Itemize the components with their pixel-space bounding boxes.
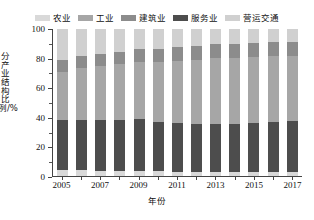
bar-segment-服务业	[76, 120, 87, 170]
x-tick	[81, 177, 82, 180]
x-tick-label: 2015	[245, 180, 263, 190]
bar-segment-农业	[172, 172, 183, 176]
bar-segment-营运交通	[191, 29, 202, 46]
x-tick-label: 2017	[283, 180, 301, 190]
legend-item-0[interactable]: 农业	[35, 14, 71, 23]
bar-segment-服务业	[191, 124, 202, 172]
bar-segment-建筑业	[248, 43, 259, 57]
bar-segment-工业	[172, 61, 183, 124]
bar-segment-农业	[191, 172, 202, 176]
legend-item-4[interactable]: 营运交通	[225, 14, 279, 23]
bar-2012[interactable]	[191, 29, 202, 176]
y-tick-label: 80	[0, 54, 45, 64]
bar-segment-营运交通	[76, 29, 87, 56]
bar-segment-营运交通	[114, 29, 125, 52]
y-tick-minor	[49, 133, 52, 134]
bar-segment-工业	[76, 68, 87, 120]
legend-label: 服务业	[191, 14, 218, 23]
bar-segment-建筑业	[76, 56, 87, 68]
bar-group	[53, 29, 302, 176]
x-tick-label: 2009	[130, 180, 148, 190]
bar-segment-农业	[248, 172, 259, 176]
x-tick-label: 2007	[91, 180, 109, 190]
bar-2013[interactable]	[210, 29, 221, 176]
bar-2005[interactable]	[57, 29, 68, 176]
bar-segment-建筑业	[172, 47, 183, 60]
x-axis-title: 年份	[0, 194, 314, 206]
bar-segment-营运交通	[57, 29, 68, 60]
bar-segment-服务业	[268, 122, 279, 172]
bar-2011[interactable]	[172, 29, 183, 176]
bar-segment-农业	[268, 172, 279, 176]
y-tick-label: 0	[0, 172, 45, 182]
y-tick-label: 20	[0, 142, 45, 152]
bar-segment-工业	[191, 60, 202, 125]
legend-item-3[interactable]: 服务业	[173, 14, 218, 23]
bar-segment-营运交通	[229, 29, 240, 44]
bar-segment-工业	[268, 56, 279, 122]
legend-item-2[interactable]: 建筑业	[121, 14, 166, 23]
bar-segment-农业	[114, 171, 125, 176]
bar-2010[interactable]	[153, 29, 164, 176]
bar-segment-营运交通	[268, 29, 279, 42]
bar-segment-服务业	[287, 121, 298, 173]
legend-item-1[interactable]: 工业	[78, 14, 114, 23]
bar-2008[interactable]	[114, 29, 125, 176]
bar-segment-服务业	[153, 122, 164, 172]
bar-segment-工业	[134, 62, 145, 119]
y-tick-minor	[49, 44, 52, 45]
legend-swatch-icon	[225, 15, 240, 21]
bar-2006[interactable]	[76, 29, 87, 176]
bar-segment-农业	[287, 172, 298, 176]
bar-segment-营运交通	[248, 29, 259, 43]
legend-swatch-icon	[121, 15, 136, 21]
bar-segment-工业	[210, 58, 221, 124]
y-tick-minor	[49, 73, 52, 74]
x-tick	[119, 177, 120, 180]
x-tick-label: 2013	[206, 180, 224, 190]
x-tick	[158, 177, 159, 180]
bar-2017[interactable]	[287, 29, 298, 176]
y-tick-minor	[49, 103, 52, 104]
bar-2009[interactable]	[134, 29, 145, 176]
legend-label: 营运交通	[243, 14, 279, 23]
bar-segment-营运交通	[210, 29, 221, 44]
chart-legend: 农业工业建筑业服务业营运交通	[0, 14, 314, 23]
y-tick-major	[48, 118, 52, 119]
x-tick-label: 2011	[168, 180, 186, 190]
bar-segment-工业	[95, 66, 106, 120]
bar-segment-农业	[210, 172, 221, 176]
y-tick-major	[48, 29, 52, 30]
bar-2015[interactable]	[248, 29, 259, 176]
bar-segment-农业	[95, 171, 106, 176]
bar-segment-建筑业	[134, 49, 145, 61]
y-tick-major	[48, 177, 52, 178]
bar-segment-建筑业	[287, 42, 298, 56]
bar-segment-工业	[114, 64, 125, 120]
legend-label: 农业	[53, 14, 71, 23]
bar-segment-工业	[248, 57, 259, 123]
bar-segment-服务业	[134, 119, 145, 171]
plot-area	[52, 29, 302, 177]
bar-segment-建筑业	[95, 54, 106, 66]
bar-segment-工业	[229, 58, 240, 124]
bar-2016[interactable]	[268, 29, 279, 176]
legend-label: 建筑业	[139, 14, 166, 23]
bar-segment-工业	[57, 72, 68, 121]
bar-segment-服务业	[57, 120, 68, 170]
bar-segment-农业	[57, 170, 68, 176]
bar-2014[interactable]	[229, 29, 240, 176]
x-tick	[196, 177, 197, 180]
legend-swatch-icon	[35, 15, 50, 21]
bar-segment-建筑业	[153, 49, 164, 62]
bar-segment-工业	[287, 56, 298, 121]
bar-segment-建筑业	[114, 52, 125, 64]
bar-segment-建筑业	[57, 60, 68, 72]
bar-segment-工业	[153, 62, 164, 122]
y-tick-label: 40	[0, 113, 45, 123]
bar-2007[interactable]	[95, 29, 106, 176]
bar-segment-服务业	[172, 123, 183, 171]
bar-segment-营运交通	[95, 29, 106, 54]
y-tick-major	[48, 147, 52, 148]
bar-segment-农业	[76, 170, 87, 176]
